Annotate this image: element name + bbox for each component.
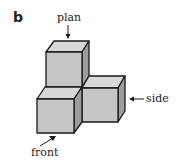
top-cube xyxy=(46,41,89,87)
front-cube-front-face xyxy=(37,99,74,133)
top-cube-front-face xyxy=(46,52,82,87)
right-cube xyxy=(82,76,125,122)
front-label: front xyxy=(31,146,58,159)
side-label: side xyxy=(146,92,169,105)
cube-diagram xyxy=(0,0,176,168)
side-arrow-icon xyxy=(129,97,144,102)
front-cube xyxy=(37,87,82,133)
plan-arrow-icon xyxy=(66,25,71,39)
front-arrow-icon xyxy=(40,136,56,146)
plan-label: plan xyxy=(57,11,81,24)
right-cube-front-face xyxy=(82,88,118,122)
